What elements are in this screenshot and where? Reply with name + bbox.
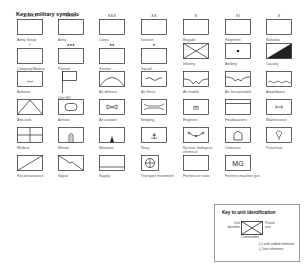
cavalry-icon [266, 43, 292, 59]
key-title: Key to unit identification [222, 210, 276, 215]
symbol-label: Air aviation [99, 118, 143, 122]
symbol-label: Ordnance [225, 146, 269, 150]
reconnaissance-icon [17, 155, 43, 171]
platoon-icon [58, 48, 84, 64]
symbol-label: Parachute [266, 146, 304, 150]
battalion-icon [266, 19, 292, 35]
signal-icon [58, 155, 84, 171]
amphibious-icon [266, 71, 292, 87]
echelon-marker: ●●● [58, 43, 84, 47]
supply-icon [99, 155, 125, 171]
headquarters-icon [225, 99, 251, 115]
fortress-or-static-icon [183, 155, 209, 171]
air-force-icon [141, 71, 167, 87]
symbol-label: Headquarters [225, 118, 269, 122]
corps-icon [99, 19, 125, 35]
ordnance-icon [225, 127, 251, 143]
symbol-label: Armour [58, 118, 102, 122]
company-battery-icon [17, 48, 43, 64]
parachute-icon [266, 127, 292, 143]
symbol-label: Army [58, 38, 102, 42]
echelon-marker: XXX [99, 14, 125, 18]
echelon-marker: XXXX [58, 14, 84, 18]
echelon-marker: ●● [99, 43, 125, 47]
airborne-icon [17, 71, 43, 87]
symbol-label: Army Group [17, 38, 61, 42]
symbol-label: Artillery [225, 62, 269, 66]
symbol-label: Air defence [99, 90, 143, 94]
symbol-label: Navy [141, 146, 185, 150]
armour-icon [58, 99, 84, 115]
echelon-marker: ● [141, 43, 167, 47]
symbol-label: Brigade [183, 38, 227, 42]
symbol-label: Division [141, 38, 185, 42]
symbol-label: Regiment [225, 38, 269, 42]
svg-text:MG: MG [232, 160, 243, 167]
symbol-label: Maintenance [266, 118, 304, 122]
artillery-icon [225, 43, 251, 59]
regiment-icon [225, 19, 251, 35]
echelon-marker: III [225, 14, 251, 18]
symbol-label: Missile [58, 146, 102, 150]
missile-icon [58, 127, 84, 143]
symbol-label: Medical [17, 146, 61, 150]
air-mobile-icon [183, 71, 209, 87]
symbol-label: Air transportable [225, 90, 269, 94]
unit-identification-key: Key to unit identification Unit identifi… [214, 204, 300, 262]
bridging-icon [141, 99, 167, 115]
air-aviation-icon [99, 99, 125, 115]
division-icon [141, 19, 167, 35]
engineer-icon: m [183, 99, 209, 115]
fortress-machine-gun-icon: MG [225, 155, 251, 171]
symbol-label: Fortress or static [183, 174, 227, 178]
medical-icon [17, 127, 43, 143]
symbol-label: Anti-tank [17, 118, 61, 122]
parent-unit-label: Parent unit [265, 222, 279, 230]
symbol-label: Bridging [141, 118, 185, 122]
symbol-label: Corps [99, 38, 143, 42]
symbol-label: Reconnaissance [17, 174, 61, 178]
army-icon [58, 19, 84, 35]
nuclear-biological-chemical-icon [183, 127, 209, 143]
echelon-marker: X [183, 14, 209, 18]
symbol-label: Cavalry [266, 62, 304, 66]
section-icon [99, 48, 125, 64]
echelon-marker: XXXXX [17, 14, 43, 18]
echelon-marker: II [266, 14, 292, 18]
symbol-label: Transport movement [141, 174, 185, 178]
army-group-icon [17, 19, 43, 35]
echelon-marker: XX [141, 14, 167, 18]
symbol-label: Signal [58, 174, 102, 178]
transport-movement-icon [141, 155, 159, 171]
anti-tank-icon [17, 99, 43, 115]
symbol-label: Mountain [99, 146, 143, 150]
commander-label: Commander [241, 236, 259, 240]
note-minus: (-) less elements [259, 248, 283, 252]
symbol-label: Engineer [183, 118, 227, 122]
unit-frame-icon [241, 221, 263, 235]
symbol-label: Infantry [183, 62, 227, 66]
svg-text:⚓: ⚓ [150, 132, 157, 141]
unit-identifier-label: Unit identifier [225, 222, 240, 230]
symbol-label: Nuclear, biological, chemical [183, 146, 227, 154]
brigade-icon [183, 19, 209, 35]
squad-icon [141, 48, 167, 64]
symbol-label: Air Force [141, 90, 185, 94]
mountain-icon [99, 127, 125, 143]
symbol-label: Supply [99, 174, 143, 178]
symbol-label: Air mobile [183, 90, 227, 94]
infantry-icon [183, 43, 209, 59]
symbol-label: Fortress machine gun [225, 174, 269, 178]
svg-text:m: m [193, 104, 199, 111]
unit-hq-icon [58, 71, 84, 93]
symbol-label: Amphibious [266, 90, 304, 94]
air-transportable-icon [225, 71, 251, 87]
navy-icon: ⚓ [141, 127, 167, 143]
air-defence-icon [99, 71, 125, 87]
symbol-label: Airborne [17, 90, 61, 94]
echelon-marker: I [17, 43, 43, 47]
maintenance-icon [266, 99, 292, 115]
symbol-label: Battalion [266, 38, 304, 42]
